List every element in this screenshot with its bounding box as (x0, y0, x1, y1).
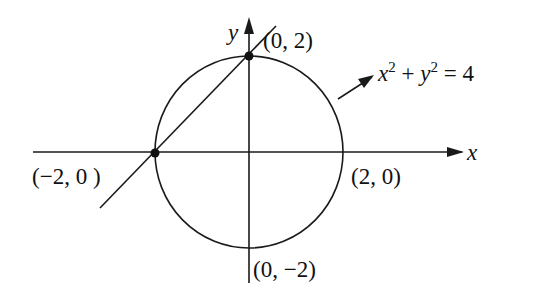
equation-y: y (418, 61, 431, 86)
equation-rhs: = 4 (438, 61, 474, 86)
circle-diagram: y x (0, 2) (−2, 0 ) (2, 0) (0, −2) x2 + … (0, 0, 541, 300)
point-right-label: (2, 0) (351, 164, 401, 189)
point-top-dot (245, 52, 254, 61)
y-axis-label: y (226, 20, 239, 45)
equation-exp1: 2 (388, 59, 396, 75)
equation-plus: + (396, 61, 420, 86)
equation-pointer-arrowhead-icon (358, 75, 374, 88)
equation-x: x (377, 61, 389, 86)
point-left-label: (−2, 0 ) (32, 164, 101, 189)
x-axis-label: x (466, 140, 478, 165)
point-top-label: (0, 2) (263, 28, 313, 53)
y-axis-arrow-icon (244, 17, 254, 34)
point-left-dot (151, 149, 160, 158)
point-bottom-label: (0, −2) (253, 257, 316, 282)
equation-exp2: 2 (430, 59, 438, 75)
circle-equation-label: x2 + y2 = 4 (377, 59, 474, 86)
x-axis-arrow-icon (447, 147, 464, 157)
